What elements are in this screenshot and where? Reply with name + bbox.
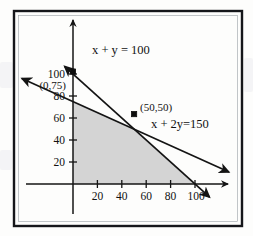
equation-label-1: x + y = 100 <box>92 43 150 57</box>
x-tick-label-40: 40 <box>116 190 128 202</box>
plot-svg: 20 40 60 80 100 20 40 60 80 100 x + y = … <box>0 0 253 236</box>
y-tick-label-60: 60 <box>54 112 66 124</box>
point-marker-0-75 <box>71 69 76 74</box>
x-tick-label-100: 100 <box>187 190 205 202</box>
x-tick-label-20: 20 <box>92 190 104 202</box>
figure-container: 20 40 60 80 100 20 40 60 80 100 x + y = … <box>0 0 253 236</box>
point-label-y-intercept: (0,75) <box>39 79 66 92</box>
equation-label-2: x + 2y=150 <box>151 117 209 131</box>
x-tick-label-80: 80 <box>165 190 177 202</box>
y-tick-label-20: 20 <box>54 156 66 168</box>
y-tick-label-40: 40 <box>54 134 66 146</box>
x-tick-label-60: 60 <box>140 190 152 202</box>
point-label-intersection: (50,50) <box>140 101 172 114</box>
y-tick-label-80: 80 <box>54 90 66 102</box>
point-marker-50-50 <box>132 112 137 117</box>
